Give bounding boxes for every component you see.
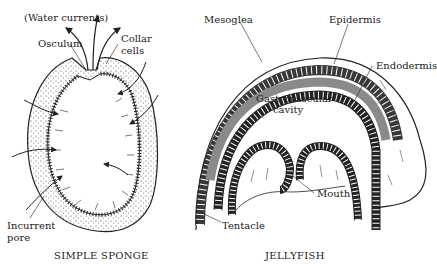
caption-simple-sponge: SIMPLE SPONGE <box>54 250 149 261</box>
caption-jellyfish: JELLYFISH <box>265 250 325 261</box>
label-epidermis: Epidermis <box>329 14 381 25</box>
label-water-currents: (Water currents) <box>24 12 108 23</box>
label-gastrovascular-line1: Gastrovascular <box>256 93 333 104</box>
label-incurrent-pore-line1: Incurrent <box>7 220 55 231</box>
label-tentacle: Tentacle <box>222 220 265 231</box>
label-mouth: Mouth <box>317 188 350 199</box>
label-incurrent-pore-line2: pore <box>7 232 30 243</box>
label-collar-cells-line1: Collar <box>121 33 152 44</box>
label-osculum: Osculum <box>38 38 83 49</box>
label-gastrovascular-line2: cavity <box>273 104 303 115</box>
label-collar-cells-line2: cells <box>121 45 144 56</box>
label-mesoglea: Mesoglea <box>204 14 253 25</box>
label-endodermis: Endodermis <box>376 60 437 71</box>
jellyfish-illustration <box>196 22 426 230</box>
